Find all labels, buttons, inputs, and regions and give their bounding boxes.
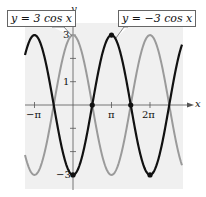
y-tick-label-3: 3 bbox=[63, 29, 69, 40]
callout-3cosx-text: y = 3 cos x bbox=[11, 12, 72, 25]
cosine-graph bbox=[0, 0, 206, 197]
x-tick-label-pi: π bbox=[108, 109, 115, 120]
callout-neg3cosx-text: y = −3 cos x bbox=[122, 12, 192, 25]
x-axis-arrow-icon bbox=[187, 103, 194, 108]
callout-neg3cosx: y = −3 cos x bbox=[118, 10, 196, 27]
x-tick-label-2pi: 2π bbox=[142, 109, 155, 120]
y-tick-label-1: 1 bbox=[63, 76, 69, 87]
x-tick-label-negpi: −π bbox=[26, 109, 41, 120]
y-tick-label-neg3: −3 bbox=[56, 169, 71, 180]
callout-3cosx: y = 3 cos x bbox=[7, 10, 76, 27]
x-axis-label: x bbox=[195, 98, 201, 109]
